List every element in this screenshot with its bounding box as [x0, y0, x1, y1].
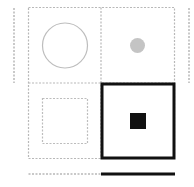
cell-top-right[interactable] — [130, 38, 145, 53]
grid-diagram — [0, 0, 194, 187]
cell-bottom-left[interactable] — [43, 99, 88, 144]
gray-dot-icon — [130, 38, 145, 53]
cell-top-left[interactable] — [43, 23, 88, 68]
black-square-icon — [130, 113, 146, 129]
dashed-square-icon — [43, 99, 88, 144]
circle-icon — [43, 23, 88, 68]
cell-bottom-right-selected[interactable] — [102, 84, 174, 158]
